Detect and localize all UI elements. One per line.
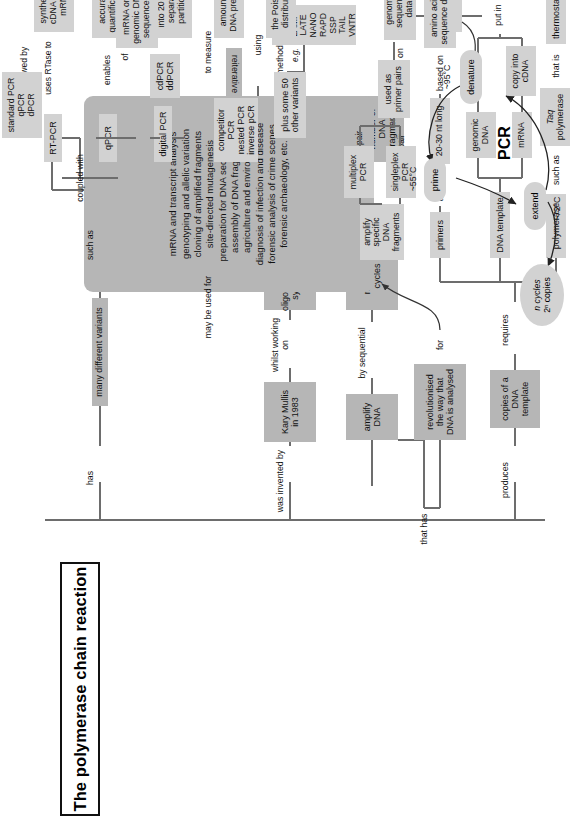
n-cycles-line2: 2ⁿ copies [542,277,552,313]
concept-map-canvas: The polymerase chain reaction was invent… [0,0,570,838]
label-denature-temp: ~95°C [440,54,454,100]
node-n-cycles-result: n cycles 2ⁿ copies [520,264,564,326]
pcr-cycle-arrows [0,0,570,838]
node-denature: denature [460,50,482,104]
label-extend-temp: ~72°C [550,186,564,232]
label-prime-temp: ~55°C [406,156,420,202]
node-prime: prime [424,158,446,202]
n-cycles-line1: n cycles [532,279,542,310]
node-extend: extend [524,182,546,230]
pcr-center-text: PCR [494,120,516,166]
